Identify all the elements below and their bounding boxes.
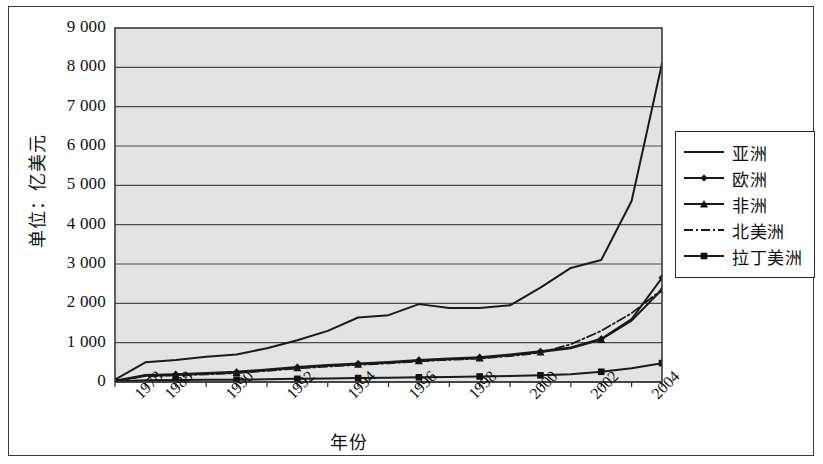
legend-item-1[interactable]: 亚洲 xyxy=(682,139,808,165)
y-axis-tick-label: 8 000 xyxy=(67,56,106,76)
y-axis-tick-label: 5 000 xyxy=(67,174,106,194)
y-axis-tick-label: 2 000 xyxy=(67,292,106,312)
legend-label: 亚洲 xyxy=(732,140,767,165)
legend-item-5[interactable]: 拉丁美洲 xyxy=(682,243,808,269)
chart-legend: 亚洲欧洲非洲北美洲拉丁美洲 xyxy=(675,131,815,278)
legend-item-4[interactable]: 北美洲 xyxy=(682,217,808,243)
legend-swatch-icon xyxy=(682,249,726,263)
x-axis-title: 年份 xyxy=(330,428,368,454)
legend-item-3[interactable]: 非洲 xyxy=(682,191,808,217)
y-axis-tick-label: 6 000 xyxy=(67,135,106,155)
y-axis-title: 单位：亿美元 xyxy=(23,111,49,271)
y-axis-tick-label: 1 000 xyxy=(67,332,106,352)
legend-swatch-icon xyxy=(682,223,726,237)
legend-label: 欧洲 xyxy=(732,166,767,191)
legend-swatch-icon xyxy=(682,197,726,211)
legend-label: 拉丁美洲 xyxy=(732,244,802,269)
data-point-marker xyxy=(701,253,708,260)
plot-background xyxy=(115,28,662,382)
legend-label: 北美洲 xyxy=(732,218,785,243)
legend-swatch-icon xyxy=(682,171,726,185)
y-axis-tick-label: 4 000 xyxy=(67,214,106,234)
y-axis-tick-label: 3 000 xyxy=(67,253,106,273)
legend-swatch-icon xyxy=(682,145,726,159)
legend-item-2[interactable]: 欧洲 xyxy=(682,165,808,191)
y-axis-tick-label: 0 xyxy=(97,371,106,391)
legend-label: 非洲 xyxy=(732,192,767,217)
data-point-marker xyxy=(700,174,707,181)
y-axis-tick-label: 9 000 xyxy=(67,17,106,37)
chart-page: 9 0008 0007 0006 0005 0004 0003 0002 000… xyxy=(0,0,823,464)
y-axis-tick-label: 7 000 xyxy=(67,96,106,116)
